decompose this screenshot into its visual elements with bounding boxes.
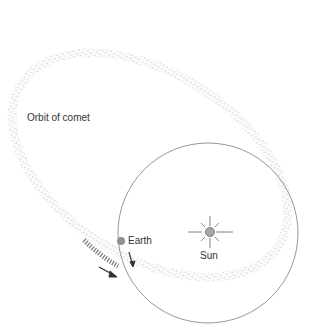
comet-direction-arrow-icon [99,267,117,277]
earth-label: Earth [128,235,152,246]
sun-icon [188,216,233,248]
comet-orbit [0,6,312,323]
comet-orbit-label: Orbit of comet [27,112,90,123]
comet-orbit-diagram: Sun Earth Orbit of comet [0,0,312,332]
sun-label: Sun [200,250,218,261]
earth-dot-icon [117,237,125,245]
